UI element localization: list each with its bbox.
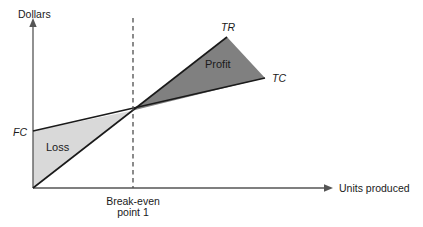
x-axis-arrow-icon [324, 184, 333, 191]
profit-region-fill [133, 37, 265, 111]
loss-region-label: Loss [46, 141, 70, 153]
y-axis-label: Dollars [18, 8, 51, 20]
total-cost-label: TC [272, 72, 286, 84]
chart-canvas: Dollars Units produced FC TR TC Loss Pro… [0, 0, 423, 227]
x-axis-label: Units produced [339, 182, 410, 194]
profit-region-label: Profit [205, 58, 231, 70]
break-even-chart: Dollars Units produced FC TR TC Loss Pro… [0, 0, 423, 227]
total-revenue-label: TR [221, 21, 235, 33]
fixed-cost-label: FC [13, 126, 27, 138]
breakeven-label-line2: point 1 [117, 206, 149, 218]
total-cost-line [33, 78, 265, 131]
total-revenue-line [33, 37, 227, 188]
